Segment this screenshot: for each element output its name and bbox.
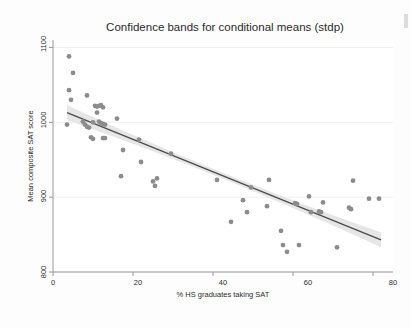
data-point <box>285 249 290 254</box>
data-point <box>245 210 250 215</box>
data-point <box>267 178 272 183</box>
data-point <box>121 148 126 153</box>
data-point <box>153 184 158 189</box>
data-point <box>67 88 72 93</box>
data-point <box>335 245 340 250</box>
y-axis-title: Mean composite SAT score <box>26 110 35 201</box>
x-tick-label-0: 0 <box>51 278 55 287</box>
data-point <box>295 202 300 207</box>
data-point <box>139 160 144 165</box>
data-point <box>279 228 284 233</box>
data-point <box>67 54 72 59</box>
data-point <box>115 116 120 121</box>
data-point <box>85 93 90 98</box>
data-point <box>101 105 106 110</box>
y-tick-label-800: 800 <box>39 266 48 279</box>
data-point <box>169 151 174 156</box>
data-point <box>87 125 92 130</box>
corner-marker <box>404 14 408 28</box>
data-point <box>351 178 356 183</box>
data-point <box>309 210 314 215</box>
y-axis-ticks <box>49 47 53 272</box>
chart-figure: 1100 1000 900 800 0 20 40 60 80 Confiden… <box>0 0 411 328</box>
data-point <box>377 196 382 201</box>
y-tick-label-1100: 1100 <box>39 36 48 52</box>
data-point <box>91 136 96 141</box>
x-axis-ticks <box>53 272 373 276</box>
data-point <box>91 120 96 125</box>
data-point <box>95 110 100 115</box>
y-tick-label-1000: 1000 <box>39 112 48 129</box>
data-point <box>103 122 108 127</box>
data-point <box>155 176 160 181</box>
data-point <box>71 71 76 76</box>
x-axis-title: % HS graduates taking SAT <box>177 290 270 299</box>
x-tick-label-80: 80 <box>389 278 397 287</box>
data-point <box>297 243 302 248</box>
data-point <box>265 204 270 209</box>
x-tick-label-60: 60 <box>304 278 312 287</box>
y-tick-label-900: 900 <box>39 190 48 203</box>
data-point <box>119 174 124 179</box>
data-point <box>321 200 326 205</box>
scatter-plot-svg: 1100 1000 900 800 0 20 40 60 80 Confiden… <box>0 0 411 328</box>
data-point <box>241 198 246 203</box>
data-point <box>249 185 254 190</box>
x-tick-label-20: 20 <box>134 278 142 287</box>
data-point <box>307 194 312 199</box>
data-point <box>103 136 108 141</box>
data-point <box>69 97 74 102</box>
data-point <box>281 243 286 248</box>
data-point <box>229 219 234 224</box>
data-point <box>215 178 220 183</box>
plot-panel-background <box>53 40 393 272</box>
data-point <box>65 122 70 127</box>
x-tick-label-40: 40 <box>219 278 227 287</box>
data-point <box>349 207 354 212</box>
data-point <box>137 137 142 142</box>
data-point <box>319 210 324 215</box>
data-point <box>151 179 156 184</box>
data-point <box>367 196 372 201</box>
chart-title: Confidence bands for conditional means (… <box>106 21 344 33</box>
